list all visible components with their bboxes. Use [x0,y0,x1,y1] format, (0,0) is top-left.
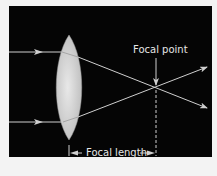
refracted-ray-bottom [78,67,207,117]
incoming-ray-top [9,49,62,55]
convex-lens [56,35,82,140]
incoming-ray-bottom [9,119,63,125]
arrow-right-icon [147,151,155,156]
focal-point-label: Focal point [133,45,188,55]
refracted-ray-top [78,57,207,108]
focal-length-label: Focal length [86,148,147,158]
